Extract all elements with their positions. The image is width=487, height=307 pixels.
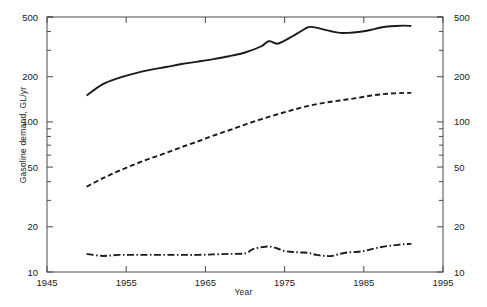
y-tick-label-left: 500 bbox=[22, 12, 38, 23]
y-tick-label-left: 50 bbox=[27, 162, 38, 173]
y-tick-label-right: 200 bbox=[454, 71, 470, 82]
y-tick-label-right: 20 bbox=[454, 221, 465, 232]
y-tick-label-left: 10 bbox=[27, 267, 38, 278]
series-line bbox=[87, 93, 412, 187]
x-axis-title: Year bbox=[0, 287, 487, 297]
y-axis-left-title: Gasoline demand, GL/yr bbox=[18, 60, 28, 210]
chart-figure: 1945195519651975198519951020501002005001… bbox=[0, 0, 487, 307]
series-line bbox=[87, 244, 412, 256]
y-tick-label-right: 500 bbox=[454, 12, 470, 23]
y-tick-label-left: 20 bbox=[27, 221, 38, 232]
y-tick-label-right: 100 bbox=[454, 116, 470, 127]
chart-plot-area: 1945195519651975198519951020501002005001… bbox=[0, 0, 487, 307]
y-tick-label-right: 10 bbox=[454, 267, 465, 278]
y-tick-label-right: 50 bbox=[454, 162, 465, 173]
series-line bbox=[87, 26, 412, 96]
plot-frame bbox=[47, 17, 443, 272]
